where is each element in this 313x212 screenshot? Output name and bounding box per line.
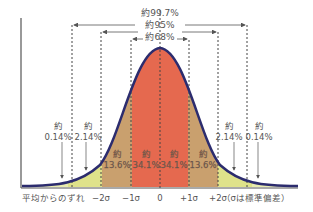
right-214-label-a: 約 (225, 121, 234, 131)
band-3-label-b: 34.1% (160, 160, 187, 170)
band-4-label-b: 13.6% (189, 160, 216, 170)
tick-minus-2-sigma: −2σ (92, 193, 111, 203)
tick-zero: 0 (157, 193, 162, 203)
left-214-label-b: 2.14% (74, 132, 101, 142)
tick-minus-1-sigma: −1σ (122, 193, 141, 203)
left-214-label-a: 約 (84, 121, 93, 131)
sigma-note: （σは標準偏差） (222, 193, 290, 203)
tail-left-label-b: 0.14% (44, 132, 71, 142)
interval-68-label: 約68% (145, 31, 174, 42)
band-3-label-a: 約 (170, 149, 179, 159)
band-4-label-a: 約 (199, 149, 208, 159)
normal-distribution-chart: 約99.7% 約95% 約68% 約 0.14% 約 2.14% 約 2.14%… (0, 0, 313, 212)
interval-95-label: 約95% (145, 19, 174, 30)
band-2-label-b: 34.1% (132, 160, 159, 170)
tail-left-label-a: 約 (54, 121, 63, 131)
band-2-label-a: 約 (142, 149, 151, 159)
tick-plus-1-sigma: +1σ (180, 193, 199, 203)
band-1-label-b: 13.6% (103, 160, 130, 170)
tail-right-label-b: 0.14% (245, 132, 272, 142)
tail-right-label-a: 約 (255, 121, 264, 131)
interval-997-label: 約99.7% (141, 7, 179, 18)
x-axis-title: 平均からのずれ (22, 193, 85, 203)
band-1-label-a: 約 (113, 149, 122, 159)
right-214-label-b: 2.14% (215, 132, 242, 142)
